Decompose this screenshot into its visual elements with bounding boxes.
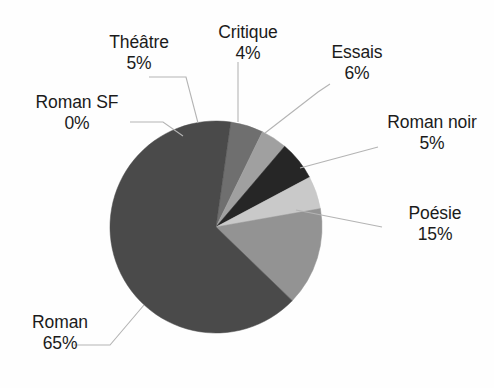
slice-label-theatre-name: Théâtre — [84, 32, 194, 53]
slice-label-critique-name: Critique — [196, 22, 300, 43]
slice-label-roman-sf-name: Roman SF — [22, 92, 132, 113]
slice-label-critique: Critique 4% — [196, 22, 300, 65]
slice-label-essais-name: Essais — [311, 42, 403, 63]
slice-label-theatre: Théâtre 5% — [84, 32, 194, 75]
pie-slices-group — [110, 121, 322, 333]
slice-label-essais-pct: 6% — [311, 63, 403, 84]
slice-label-roman: Roman 65% — [10, 312, 110, 355]
slice-label-roman-pct: 65% — [10, 333, 110, 354]
slice-label-roman-noir-name: Roman noir — [372, 112, 492, 133]
slice-label-essais: Essais 6% — [311, 42, 403, 85]
slice-label-roman-noir-pct: 5% — [372, 133, 492, 154]
leader-line-roman-noir — [300, 147, 378, 168]
leader-line-essais — [265, 84, 330, 133]
slice-label-poesie-name: Poésie — [387, 203, 483, 224]
slice-label-theatre-pct: 5% — [84, 53, 194, 74]
slice-label-roman-sf-pct: 0% — [22, 113, 132, 134]
slice-label-roman-noir: Roman noir 5% — [372, 112, 492, 155]
slice-label-roman-name: Roman — [10, 312, 110, 333]
slice-label-roman-sf: Roman SF 0% — [22, 92, 132, 135]
slice-label-poesie-pct: 15% — [387, 224, 483, 245]
slice-label-poesie: Poésie 15% — [387, 203, 483, 246]
slice-label-critique-pct: 4% — [196, 43, 300, 64]
leader-line-theatre — [149, 77, 198, 123]
pie-chart: Théâtre 5% Critique 4% Essais 6% Roman S… — [0, 0, 494, 388]
